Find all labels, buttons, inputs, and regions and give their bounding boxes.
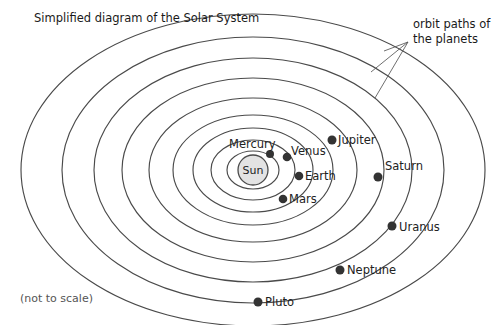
planet-dot-venus	[283, 153, 292, 162]
planet-dot-pluto	[254, 298, 263, 307]
planet-label-pluto: Pluto	[265, 295, 294, 309]
scale-footnote: (not to scale)	[20, 292, 93, 305]
planet-label-saturn: Saturn	[385, 159, 423, 173]
planet-dot-mars	[279, 195, 288, 204]
solar-system-diagram: Sun MercuryVenusEarthMarsJupiterSaturnUr…	[0, 0, 500, 325]
planet-dot-neptune	[336, 266, 345, 275]
page-title: Simplified diagram of the Solar System	[34, 11, 259, 25]
planet-label-mercury: Mercury	[229, 137, 276, 151]
planet-label-uranus: Uranus	[399, 220, 440, 234]
planet-dot-mercury	[266, 150, 274, 158]
planet-label-earth: Earth	[305, 169, 336, 183]
planet-dot-saturn	[374, 173, 383, 182]
planet-dot-earth	[295, 172, 304, 181]
planet-dot-uranus	[388, 222, 397, 231]
planet-label-mars: Mars	[289, 192, 317, 206]
annotation-line-1: orbit paths of	[413, 17, 491, 31]
planet-label-neptune: Neptune	[347, 263, 396, 277]
sun-label: Sun	[243, 164, 264, 177]
planet-label-jupiter: Jupiter	[337, 133, 376, 147]
annotation-line-2: the planets	[413, 32, 478, 46]
planet-label-venus: Venus	[291, 144, 326, 158]
planet-dot-jupiter	[328, 136, 337, 145]
diagram-canvas: Sun MercuryVenusEarthMarsJupiterSaturnUr…	[0, 0, 500, 325]
